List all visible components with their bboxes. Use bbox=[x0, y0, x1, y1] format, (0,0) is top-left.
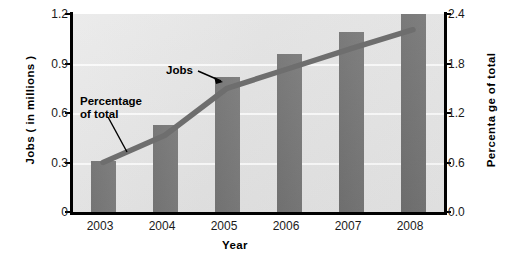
x-tick-2003: 2003 bbox=[70, 219, 130, 233]
x-tick-2007: 2007 bbox=[318, 219, 378, 233]
x-tick-2005: 2005 bbox=[194, 219, 254, 233]
y-axis-left-title: Jobs ( in millions ) bbox=[24, 25, 36, 195]
x-axis-ticks: 2003 2004 2005 2006 2007 2008 bbox=[0, 0, 514, 260]
chart-figure: Percentage of total Jobs 1.2 0.9 0.6 0.3… bbox=[0, 0, 514, 260]
x-tick-2004: 2004 bbox=[132, 219, 192, 233]
x-axis-title: Year bbox=[0, 239, 470, 251]
y-axis-right-title: Percenta ge of total bbox=[485, 25, 497, 195]
x-tick-2008: 2008 bbox=[380, 219, 440, 233]
x-tick-2006: 2006 bbox=[256, 219, 316, 233]
